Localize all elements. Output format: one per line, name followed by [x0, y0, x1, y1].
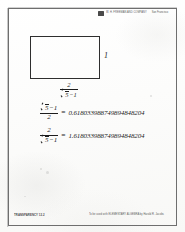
width-fraction: 2 5 −1: [60, 82, 77, 99]
equation-1-equals-sign: =: [61, 108, 65, 117]
width-radicand: 5: [65, 91, 69, 99]
equation-2-denominator-suffix: −1: [49, 136, 57, 144]
equation-1-denominator: 2: [40, 114, 58, 121]
equation-1-numerator: 5 −1: [40, 104, 58, 112]
equation-1-numerator-suffix: −1: [49, 104, 57, 112]
rectangle-height-label: 1: [104, 52, 108, 60]
rectangle-width-label: 2 5 −1: [52, 80, 86, 99]
equation-1-fraction: 5 −1 2: [40, 104, 58, 122]
equation-2-radicand: 5: [45, 136, 50, 144]
transparency-number: TRANSPARENCY 12.2: [14, 214, 45, 217]
equation-phi-reciprocal: 5 −1 2 = 0.618033988749894848204: [40, 104, 144, 122]
equation-phi: 2 5 −1 = 1.618033988749894848204: [40, 127, 144, 145]
equation-2-fraction: 2 5 −1: [40, 127, 58, 145]
golden-rectangle-shape: [30, 36, 100, 79]
radical-icon: 5: [61, 91, 69, 99]
transparency-page: W. H. FREEMAN AND COMPANY San Francisco …: [0, 0, 185, 232]
equation-1-radicand: 5: [45, 104, 50, 112]
radical-icon: 5: [41, 136, 49, 144]
width-denominator-suffix: −1: [69, 91, 77, 98]
equation-2-equals-sign: =: [61, 131, 65, 140]
equation-1-value: 0.618033988749894848204: [68, 109, 144, 117]
footer-attribution: To be used with ELEMENTARY ALGEBRA by Ha…: [89, 214, 164, 217]
width-denominator: 5 −1: [60, 91, 77, 99]
equation-2-denominator: 5 −1: [40, 136, 58, 144]
equation-2-value: 1.618033988749894848204: [68, 132, 144, 140]
radical-icon: 5: [41, 104, 49, 112]
